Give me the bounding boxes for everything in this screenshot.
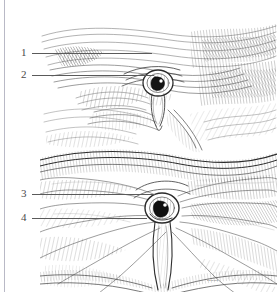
callout-4-number: 4 <box>21 212 27 223</box>
callout-2-number: 2 <box>21 69 27 80</box>
page-border-rule <box>4 0 5 292</box>
callout-3-leader-line <box>32 194 155 195</box>
callout-1-leader-line <box>32 53 152 54</box>
engraving-plate: 1 2 3 4 ••••••• <box>0 0 277 308</box>
anatomical-illustration <box>40 14 277 292</box>
callout-3-number: 3 <box>21 188 27 199</box>
callout-4-leader-line <box>32 218 147 219</box>
callout-2-leader-line <box>32 75 154 76</box>
callout-1-number: 1 <box>21 47 27 58</box>
artist-signature: ••••••• <box>207 277 218 283</box>
